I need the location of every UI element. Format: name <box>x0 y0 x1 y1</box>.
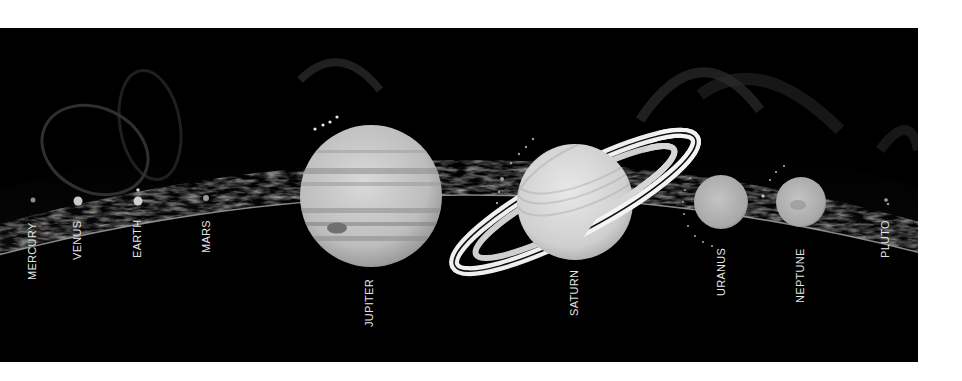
label-venus: VENUS <box>72 221 83 260</box>
mars-planet <box>203 195 209 201</box>
label-uranus: URANUS <box>716 248 727 296</box>
pluto-planet <box>884 198 888 202</box>
charon <box>887 203 890 206</box>
great-red-spot <box>327 223 347 234</box>
earth-planet <box>134 197 143 206</box>
mercury-planet <box>31 198 36 203</box>
solar-system-diagram: MERCURY VENUS EARTH MARS JUPITER SATURN … <box>0 28 918 362</box>
venus-planet <box>74 197 83 206</box>
label-mars: MARS <box>201 220 212 253</box>
label-neptune: NEPTUNE <box>795 248 806 303</box>
label-mercury: MERCURY <box>27 222 38 280</box>
moon <box>136 188 140 192</box>
label-pluto: PLUTO <box>880 220 891 258</box>
diagram-canvas <box>0 28 918 362</box>
label-jupiter: JUPITER <box>364 279 375 327</box>
label-earth: EARTH <box>132 219 143 258</box>
label-saturn: SATURN <box>569 270 580 316</box>
uranus-planet <box>694 175 748 229</box>
